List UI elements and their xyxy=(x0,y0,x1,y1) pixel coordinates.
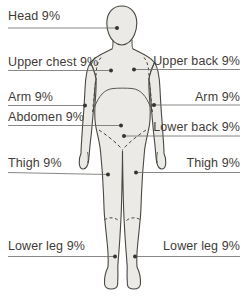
callout-dot-lower-back xyxy=(122,134,126,138)
rule-of-nines-diagram: Head 9% Upper chest 9% Upper back 9% Arm… xyxy=(0,0,248,296)
label-thigh-right: Thigh 9% xyxy=(186,157,240,170)
callout-dot-arm-left xyxy=(83,104,87,108)
label-head: Head 9% xyxy=(8,10,60,23)
callout-dot-upper-chest xyxy=(109,69,113,73)
callout-dot-thigh-right xyxy=(134,171,138,175)
label-lower-leg-left: Lower leg 9% xyxy=(8,240,85,253)
label-thigh-left: Thigh 9% xyxy=(8,157,62,170)
label-upper-chest: Upper chest 9% xyxy=(8,56,98,69)
label-arm-left: Arm 9% xyxy=(8,91,53,104)
callout-dot-abdomen xyxy=(119,124,123,128)
callout-dot-upper-back xyxy=(132,68,136,72)
label-lower-leg-right: Lower leg 9% xyxy=(163,240,240,253)
label-arm-right: Arm 9% xyxy=(195,91,240,104)
label-abdomen: Abdomen 9% xyxy=(8,111,84,124)
label-upper-back: Upper back 9% xyxy=(153,55,240,68)
callout-dot-arm-right xyxy=(152,103,156,107)
callout-dot-lower-leg-left xyxy=(113,255,117,259)
callout-dot-lower-leg-right xyxy=(133,255,137,259)
head xyxy=(107,6,137,45)
callout-dot-head xyxy=(115,26,119,30)
callout-dot-thigh-left xyxy=(106,173,110,177)
callout-line-thigh-left xyxy=(8,173,108,175)
label-lower-back: Lower back 9% xyxy=(153,121,240,134)
